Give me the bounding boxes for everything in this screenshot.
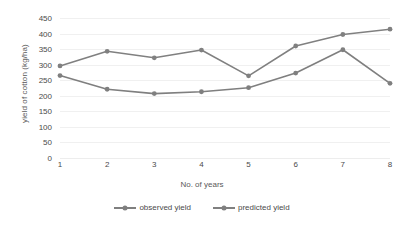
data-point-marker <box>388 27 393 32</box>
y-tick-label: 50 <box>43 138 52 147</box>
data-point-marker <box>105 87 110 92</box>
data-point-marker <box>199 89 204 94</box>
y-tick-label: 250 <box>39 76 52 85</box>
y-tick-label: 100 <box>39 122 52 131</box>
line-chart: yield of cotton (kg/ha) 0501001502002503… <box>0 0 404 227</box>
legend-label: predicted yield <box>238 203 290 212</box>
x-tick-label: 8 <box>388 160 392 169</box>
chart-legend: observed yieldpredicted yield <box>0 203 404 212</box>
series-line <box>60 50 390 94</box>
legend-label: observed yield <box>139 203 191 212</box>
data-point-marker <box>152 55 157 60</box>
x-tick-label: 7 <box>341 160 345 169</box>
legend-line-marker-icon <box>213 204 235 212</box>
plot-area <box>60 18 390 158</box>
legend-line-marker-icon <box>114 204 136 212</box>
data-point-marker <box>58 64 63 69</box>
legend-item[interactable]: observed yield <box>114 203 191 212</box>
x-axis-title: No. of years <box>0 180 404 189</box>
series-predicted-yield <box>58 27 393 78</box>
y-axis-tick-labels: 050100150200250300350400450 <box>0 18 56 158</box>
data-point-marker <box>58 73 63 78</box>
y-tick-label: 0 <box>48 154 52 163</box>
data-point-marker <box>199 48 204 53</box>
data-point-marker <box>246 85 251 90</box>
x-tick-label: 3 <box>152 160 156 169</box>
legend-item[interactable]: predicted yield <box>213 203 290 212</box>
series-layer <box>60 18 390 158</box>
x-tick-label: 1 <box>58 160 62 169</box>
series-line <box>60 29 390 76</box>
data-point-marker <box>105 49 110 54</box>
y-tick-label: 450 <box>39 14 52 23</box>
data-point-marker <box>340 47 345 52</box>
y-tick-label: 400 <box>39 29 52 38</box>
data-point-marker <box>293 71 298 76</box>
x-tick-label: 2 <box>105 160 109 169</box>
y-tick-label: 300 <box>39 60 52 69</box>
series-observed-yield <box>58 47 393 96</box>
data-point-marker <box>340 32 345 37</box>
data-point-marker <box>246 73 251 78</box>
y-tick-label: 150 <box>39 107 52 116</box>
data-point-marker <box>293 44 298 49</box>
y-tick-label: 200 <box>39 91 52 100</box>
x-tick-label: 6 <box>293 160 297 169</box>
x-tick-label: 5 <box>246 160 250 169</box>
data-point-marker <box>388 81 393 86</box>
data-point-marker <box>152 91 157 96</box>
grid-line <box>60 158 390 159</box>
x-axis-tick-labels: 12345678 <box>60 160 390 174</box>
y-tick-label: 350 <box>39 45 52 54</box>
x-tick-label: 4 <box>199 160 203 169</box>
